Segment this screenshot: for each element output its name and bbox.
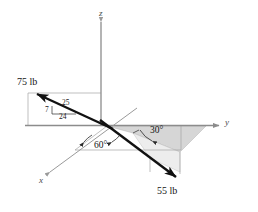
slope-hypotenuse-label: 25	[62, 99, 70, 107]
axis-label-y: y	[225, 118, 229, 127]
force-vector-diagram: z y x 75 lb 55 lb 30° 60° 25 7 24	[0, 0, 258, 212]
angle-label-30: 30°	[150, 126, 163, 136]
slope-vertical-label: 7	[45, 106, 49, 114]
force-label-55lb: 55 lb	[157, 186, 177, 196]
angle-label-60: 60°	[94, 141, 107, 151]
force-label-75lb: 75 lb	[17, 77, 37, 87]
axis-label-z: z	[99, 9, 103, 18]
axis-label-x: x	[39, 176, 43, 185]
slope-horizontal-label: 24	[59, 113, 67, 121]
